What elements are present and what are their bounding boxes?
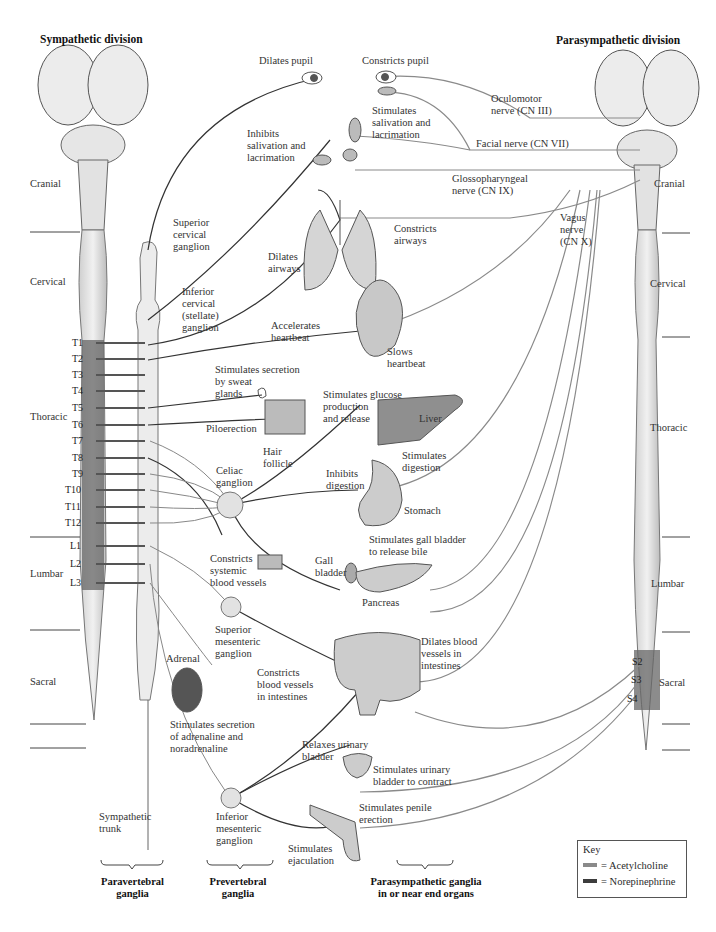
constricts-airways-label: Constricts airways xyxy=(394,223,437,247)
pancreas xyxy=(356,564,432,592)
contract-bladder-label: Stimulates urinary bladder to contract xyxy=(373,764,452,788)
glucose-label: Stimulates glucose production and releas… xyxy=(323,389,402,425)
right-region-sacral: Sacral xyxy=(659,677,685,689)
constricts-pupil-label: Constricts pupil xyxy=(362,55,429,67)
acetylcholine-swatch xyxy=(583,863,597,867)
left-region-lumbar: Lumbar xyxy=(30,568,63,580)
seg-t11: T11 xyxy=(65,501,81,512)
adrenal-label: Adrenal xyxy=(166,653,200,665)
celiac-label: Celiac ganglion xyxy=(216,465,253,489)
glossopharyngeal-label: Glossopharyngeal nerve (CN IX) xyxy=(452,173,528,197)
celiac-ganglion-shape xyxy=(217,492,243,518)
right-brain xyxy=(595,50,699,230)
vagus-label: Vagus nerve (CN X) xyxy=(560,212,592,248)
seg-t3: T3 xyxy=(72,369,83,380)
parasympathetic-ganglia-label: Parasympathetic ganglia in or near end o… xyxy=(364,876,488,900)
heart xyxy=(356,280,403,356)
intestines xyxy=(334,633,420,716)
stomach-label: Stomach xyxy=(404,505,441,517)
constricts-systemic-label: Constricts systemic blood vessels xyxy=(210,553,266,589)
pancreas-label: Pancreas xyxy=(362,597,399,609)
seg-t4: T4 xyxy=(72,385,83,396)
seg-t9: T9 xyxy=(72,468,83,479)
sympathetic-trunk-label: Sympathetic trunk xyxy=(99,811,152,835)
stim-salivation-label: Stimulates salivation and lacrimation xyxy=(372,105,431,141)
seg-t8: T8 xyxy=(72,452,83,463)
inferior-cervical-label: Inferior cervical (stellate) ganglion xyxy=(182,286,219,334)
seg-t7: T7 xyxy=(72,435,83,446)
right-region-lumbar: Lumbar xyxy=(651,578,684,590)
dilates-pupil-label: Dilates pupil xyxy=(259,55,313,67)
hair-follicle-label: Hair follicle xyxy=(263,446,293,470)
seg-t2: T2 xyxy=(72,353,83,364)
seg-s2: S2 xyxy=(632,656,643,667)
dilates-airways-label: Dilates airways xyxy=(268,251,301,275)
sweat-label: Stimulates secretion by sweat glands xyxy=(215,364,300,400)
diagram-artwork xyxy=(0,0,716,932)
lungs xyxy=(304,200,376,290)
left-region-thoracic: Thoracic xyxy=(30,411,67,423)
left-region-cranial: Cranial xyxy=(30,178,61,190)
stomach xyxy=(359,460,403,526)
seg-t5: T5 xyxy=(72,402,83,413)
seg-s3: S3 xyxy=(631,674,642,685)
slows-heartbeat-label: Slows heartbeat xyxy=(387,346,425,370)
norepinephrine-swatch xyxy=(583,879,597,883)
paravertebral-label: Paravertebral ganglia xyxy=(100,876,165,900)
oculomotor-label: Oculomotor nerve (CN III) xyxy=(491,93,552,117)
sympathetic-chain xyxy=(136,242,160,700)
parasympathetic-title: Parasympathetic division xyxy=(556,34,680,46)
liver-label: Liver xyxy=(419,413,442,425)
right-region-thoracic: Thoracic xyxy=(650,422,687,434)
facial-label: Facial nerve (CN VII) xyxy=(476,138,569,150)
inhib-salivation-label: Inhibits salivation and lacrimation xyxy=(247,128,306,164)
accelerates-heartbeat-label: Accelerates heartbeat xyxy=(271,320,320,344)
left-region-sacral: Sacral xyxy=(30,676,56,688)
sympathetic-title: Sympathetic division xyxy=(40,33,143,45)
seg-t10: T10 xyxy=(65,484,81,495)
adrenal-kidney xyxy=(172,668,202,712)
prevertebral-label: Prevertebral ganglia xyxy=(208,876,268,900)
left-brain xyxy=(38,45,148,230)
relaxes-bladder-label: Relaxes urinary bladder xyxy=(302,739,368,763)
penile-erection-label: Stimulates penile erection xyxy=(359,802,432,826)
key-norepinephrine: = Norepinephrine xyxy=(578,873,686,889)
seg-t12: T12 xyxy=(65,517,81,528)
seg-l1: L1 xyxy=(70,540,81,551)
ejaculation-label: Stimulates ejaculation xyxy=(288,843,334,867)
inhib-digestion-label: Inhibits digestion xyxy=(326,468,365,492)
gall-bladder-label: Gall bladder xyxy=(315,555,347,579)
seg-l3: L3 xyxy=(70,577,81,588)
right-region-cranial: Cranial xyxy=(654,178,685,190)
right-region-cervical: Cervical xyxy=(650,278,686,290)
stim-digestion-label: Stimulates digestion xyxy=(402,450,446,474)
left-region-cervical: Cervical xyxy=(30,276,66,288)
key-title: Key xyxy=(578,841,686,857)
seg-t6: T6 xyxy=(72,419,83,430)
legend-key: Key = Acetylcholine = Norepinephrine xyxy=(577,840,687,898)
key-acetylcholine: = Acetylcholine xyxy=(578,857,686,873)
seg-l2: L2 xyxy=(70,558,81,569)
seg-s4: S4 xyxy=(627,693,638,704)
superior-mesenteric-label: Superior mesenteric ganglion xyxy=(215,624,260,660)
gall-bile-label: Stimulates gall bladder to release bile xyxy=(369,534,466,558)
superior-cervical-label: Superior cervical ganglion xyxy=(173,217,210,253)
piloerection-label: Piloerection xyxy=(206,423,257,435)
seg-t1: T1 xyxy=(72,337,83,348)
adrenal-secretion-label: Stimulates secretion of adrenaline and n… xyxy=(170,719,255,755)
dilates-intestine-vessels-label: Dilates blood vessels in intestines xyxy=(421,636,477,672)
constricts-intestine-vessels-label: Constricts blood vessels in intestines xyxy=(257,667,313,703)
inferior-mesenteric-label: Inferior mesenteric ganglion xyxy=(216,811,261,847)
